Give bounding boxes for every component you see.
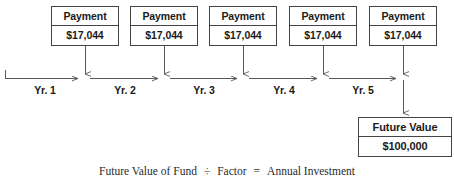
- payment-box-2-header: Payment: [131, 7, 197, 26]
- payment-box-3-amount: $17,044: [210, 26, 276, 45]
- payment-box-2-amount: $17,044: [131, 26, 197, 45]
- formula-term-2: Factor: [217, 165, 246, 177]
- formula-term-3: Annual Investment: [267, 165, 355, 177]
- formula-term-1: Future Value of Fund: [99, 165, 197, 177]
- year-label-4: Yr. 4: [244, 84, 324, 96]
- year-label-3: Yr. 3: [164, 84, 244, 96]
- payment-box-5: Payment $17,044: [369, 6, 437, 46]
- year-label-2: Yr. 2: [85, 84, 165, 96]
- payment-box-5-amount: $17,044: [370, 26, 436, 45]
- year-label-5: Yr. 5: [323, 84, 403, 96]
- formula-operator-divide: ÷: [197, 165, 217, 177]
- diagram-canvas: Payment $17,044 Payment $17,044 Payment …: [0, 0, 454, 177]
- payment-box-5-header: Payment: [370, 7, 436, 26]
- formula-operator-equals: =: [247, 165, 268, 177]
- payment-box-1-amount: $17,044: [52, 26, 118, 45]
- future-value-header: Future Value: [359, 118, 451, 137]
- payment-box-1-header: Payment: [52, 7, 118, 26]
- future-value-amount: $100,000: [359, 137, 451, 156]
- payment-box-2: Payment $17,044: [130, 6, 198, 46]
- payment-box-3-header: Payment: [210, 7, 276, 26]
- year-label-1: Yr. 1: [5, 84, 85, 96]
- formula-caption: Future Value of Fund÷Factor=Annual Inves…: [0, 165, 454, 177]
- future-value-box: Future Value $100,000: [358, 117, 452, 157]
- payment-box-4: Payment $17,044: [289, 6, 357, 46]
- payment-box-3: Payment $17,044: [209, 6, 277, 46]
- payment-box-4-header: Payment: [290, 7, 356, 26]
- payment-box-4-amount: $17,044: [290, 26, 356, 45]
- payment-box-1: Payment $17,044: [51, 6, 119, 46]
